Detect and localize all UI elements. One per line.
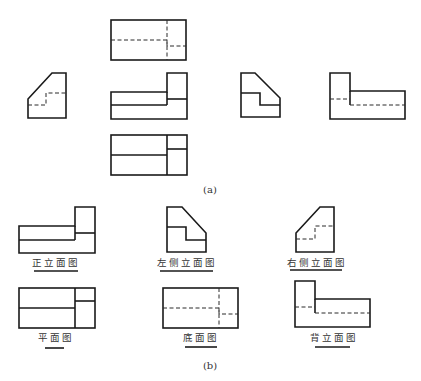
part-b-front-elevation: 正立面图 (19, 207, 95, 271)
part-b-plan-view: 平面图 (19, 288, 95, 348)
label-left-side-elevation: 左侧立面图 (157, 257, 217, 268)
label-front-elevation: 正立面图 (32, 257, 80, 268)
label-plan-view: 平面图 (38, 332, 74, 343)
label-back-elevation: 背立面图 (310, 332, 358, 343)
part-b-back-elevation: 背立面图 (295, 281, 370, 347)
label-right-side-elevation: 右侧立面图 (287, 257, 347, 268)
orthographic-views-figure: (a) 正立面图 左侧立面图 右侧立面图 平面图 底面图 (0, 0, 421, 381)
part-a-left-profile-view (28, 73, 66, 118)
part-a-plan-view (111, 135, 187, 175)
caption-b: (b) (203, 360, 217, 371)
part-b-left-side-elevation: 左侧立面图 (157, 207, 217, 271)
label-bottom-view: 底面图 (183, 332, 219, 343)
part-a-front-view (111, 73, 187, 119)
part-a-right-profile-view (241, 73, 280, 117)
part-b-right-side-elevation: 右侧立面图 (287, 207, 347, 270)
part-a-top-view (111, 20, 186, 60)
part-b-bottom-view: 底面图 (163, 288, 238, 347)
caption-a: (a) (203, 184, 217, 195)
part-a-rear-view (330, 73, 405, 119)
